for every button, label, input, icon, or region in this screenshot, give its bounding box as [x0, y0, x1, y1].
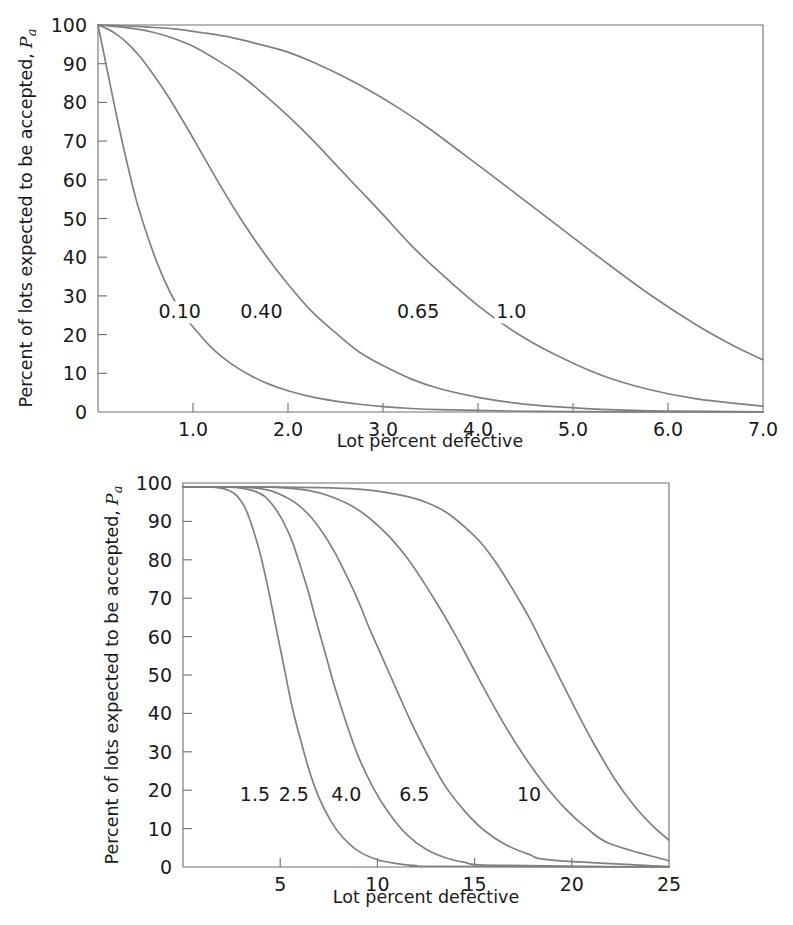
y-tick-label-70: 70	[63, 130, 87, 152]
x-tick-label-5: 5	[274, 873, 286, 895]
y-tick-label-0: 0	[160, 856, 172, 878]
y-tick-label-20: 20	[148, 779, 172, 801]
curve-bottom-4.0	[183, 487, 669, 867]
x-tick-label-1: 1.0	[178, 418, 208, 440]
x-tick-label-20: 20	[560, 873, 584, 895]
axis-ticks-top	[98, 64, 668, 412]
curve-top-0.65	[98, 25, 763, 406]
x-axis-title-bottom: Lot percent defective	[333, 887, 519, 907]
curve-label-top-0.65: 0.65	[397, 300, 439, 322]
curve-labels-top: 0.100.400.651.0	[157, 300, 528, 323]
curve-labels-bottom: 1.52.54.06.510	[238, 783, 541, 806]
curve-label-bottom-2.5: 2.5	[279, 783, 309, 805]
curve-label-bottom-6.5: 6.5	[399, 783, 429, 805]
x-tick-label-7: 7.0	[748, 418, 778, 440]
chart-panel-top: 0102030405060708090100 1.02.03.04.05.06.…	[0, 0, 793, 460]
y-tick-labels-bottom: 0102030405060708090100	[136, 472, 172, 878]
svg-text:Percent of lots expected to be: Percent of lots expected to be accepted,…	[16, 29, 39, 408]
y-tick-label-100: 100	[51, 14, 87, 36]
curve-label-bottom-4.0: 4.0	[331, 783, 361, 805]
x-tick-label-25: 25	[657, 873, 681, 895]
y-tick-label-90: 90	[148, 510, 172, 532]
oc-curves-figure: 0102030405060708090100 1.02.03.04.05.06.…	[0, 0, 793, 925]
curve-label-top-0.40: 0.40	[240, 300, 282, 322]
plot-frame-top	[98, 25, 763, 412]
y-tick-label-0: 0	[75, 401, 87, 423]
y-axis-title-top-subscript: a	[24, 29, 39, 37]
y-axis-title-top-text: Percent of lots expected to be accepted,	[16, 53, 36, 407]
y-tick-label-90: 90	[63, 53, 87, 75]
y-tick-label-80: 80	[63, 91, 87, 113]
y-axis-title-bottom: Percent of lots expected to be accepted,…	[102, 486, 125, 865]
x-axis-title-top: Lot percent defective	[337, 431, 523, 451]
y-tick-label-20: 20	[63, 324, 87, 346]
curve-top-0.10	[98, 25, 763, 412]
curve-label-bottom-10: 10	[517, 783, 541, 805]
curve-group-top	[98, 25, 763, 412]
y-axis-title-bottom-text: Percent of lots expected to be accepted,	[102, 510, 122, 864]
oc-curve-chart-bottom: 0102030405060708090100 510152025 1.52.54…	[0, 460, 793, 925]
x-tick-label-2: 2.0	[273, 418, 303, 440]
y-tick-label-40: 40	[148, 702, 172, 724]
curve-group-bottom	[183, 487, 669, 867]
chart-panel-bottom: 0102030405060708090100 510152025 1.52.54…	[0, 460, 793, 925]
y-tick-label-70: 70	[148, 587, 172, 609]
y-tick-label-80: 80	[148, 549, 172, 571]
axis-ticks-bottom	[183, 521, 572, 867]
y-tick-label-60: 60	[148, 626, 172, 648]
y-tick-label-100: 100	[136, 472, 172, 494]
y-tick-label-50: 50	[63, 208, 87, 230]
y-tick-label-10: 10	[148, 818, 172, 840]
y-axis-title-top: Percent of lots expected to be accepted,…	[16, 29, 39, 408]
curve-label-top-0.10: 0.10	[159, 300, 201, 322]
y-tick-label-30: 30	[148, 741, 172, 763]
curve-label-bottom-1.5: 1.5	[240, 783, 270, 805]
curve-top-0.40	[98, 25, 763, 412]
y-tick-label-50: 50	[148, 664, 172, 686]
y-tick-label-40: 40	[63, 246, 87, 268]
y-tick-label-10: 10	[63, 362, 87, 384]
x-tick-label-5: 5.0	[558, 418, 588, 440]
x-tick-label-6: 6.0	[653, 418, 683, 440]
y-axis-title-bottom-subscript: a	[110, 486, 125, 494]
svg-text:Percent of lots expected to be: Percent of lots expected to be accepted,…	[102, 486, 125, 865]
curve-bottom-2.5	[183, 487, 669, 867]
y-tick-label-30: 30	[63, 285, 87, 307]
y-tick-label-60: 60	[63, 169, 87, 191]
oc-curve-chart-top: 0102030405060708090100 1.02.03.04.05.06.…	[0, 0, 793, 460]
curve-label-top-1.0: 1.0	[496, 300, 526, 322]
curve-bottom-1.5	[183, 487, 669, 867]
y-tick-labels-top: 0102030405060708090100	[51, 14, 87, 423]
